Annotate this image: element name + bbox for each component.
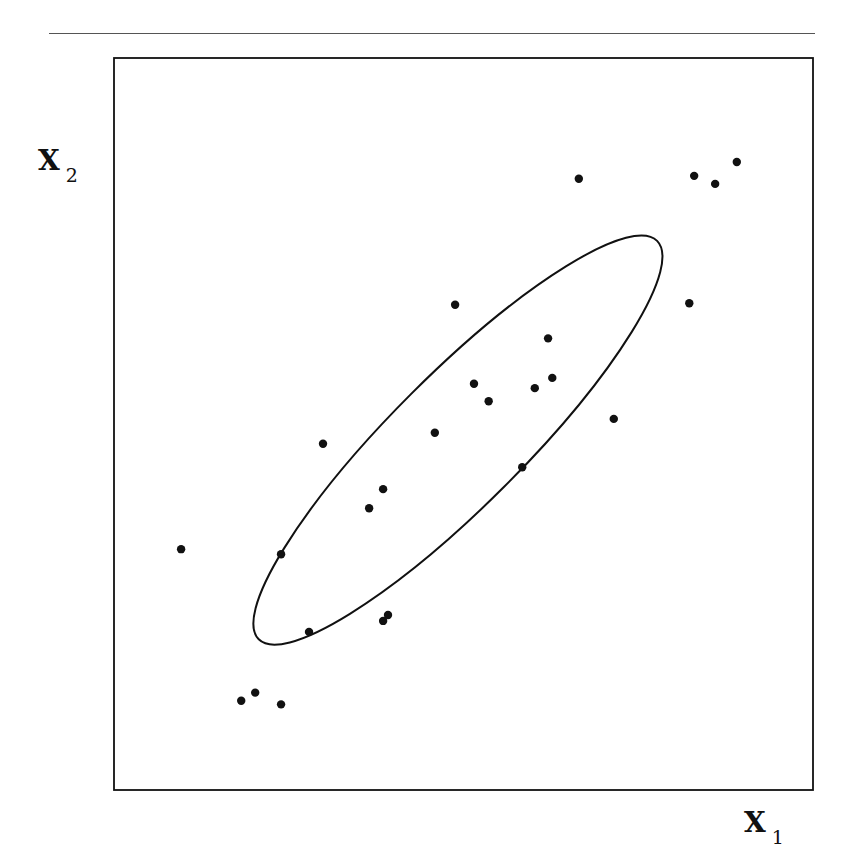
y-axis-label-main: X — [38, 144, 60, 177]
data-point — [544, 334, 552, 342]
y-axis-label: X2 — [38, 144, 78, 186]
data-point — [277, 550, 285, 558]
data-point — [711, 180, 719, 188]
data-point — [575, 175, 583, 183]
data-point — [251, 688, 259, 696]
data-point — [379, 617, 387, 625]
data-point — [548, 374, 556, 382]
confidence-ellipse — [212, 194, 703, 685]
data-point — [451, 300, 459, 308]
data-point — [319, 440, 327, 448]
data-point — [379, 485, 387, 493]
data-point — [177, 545, 185, 553]
data-point — [484, 397, 492, 405]
data-point — [277, 700, 285, 708]
plot-frame — [114, 58, 813, 790]
data-point — [365, 504, 373, 512]
data-point — [237, 696, 245, 704]
data-point — [610, 415, 618, 423]
x-axis-label-main: X — [744, 806, 766, 839]
data-point — [470, 380, 478, 388]
data-point — [305, 628, 313, 636]
data-point — [431, 429, 439, 437]
y-axis-label-subscript: 2 — [66, 164, 78, 186]
data-point — [531, 384, 539, 392]
data-point — [733, 158, 741, 166]
data-point — [518, 463, 526, 471]
data-point — [685, 299, 693, 307]
scatter-chart: X2 X1 — [0, 0, 852, 848]
x-axis-label-subscript: 1 — [772, 826, 784, 848]
data-point — [690, 172, 698, 180]
x-axis-label: X1 — [744, 806, 784, 848]
